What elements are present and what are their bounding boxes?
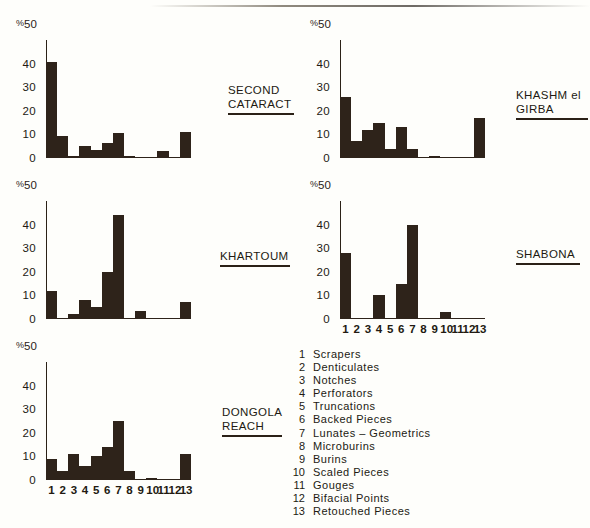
x-tick-label: 9 xyxy=(135,484,146,496)
legend-item: 8Microburins xyxy=(285,440,431,453)
x-tick-labels-dongola-reach: 12345678910111213 xyxy=(46,484,191,496)
x-tick-label: 9 xyxy=(429,323,440,335)
percent-symbol: % xyxy=(16,340,24,350)
bar xyxy=(169,157,180,158)
chart-second-cataract: %50 403020100 SECOND CATARACT xyxy=(0,10,294,175)
y-axis-max: 50 xyxy=(24,179,37,191)
bar xyxy=(91,456,102,480)
bar xyxy=(157,318,168,319)
bar xyxy=(46,291,57,319)
y-tick-label: 10 xyxy=(23,450,36,462)
bar xyxy=(57,318,68,319)
legend-item-label: Denticulates xyxy=(313,361,380,374)
title-line-2: REACH xyxy=(222,420,264,432)
plot-area-dongola-reach: 403020100 12345678910111213 xyxy=(46,362,191,480)
plot-area-khashm-el-girba: 403020100 xyxy=(340,40,485,158)
bar xyxy=(169,479,180,480)
y-axis-max: 50 xyxy=(318,179,331,191)
bar xyxy=(68,454,79,480)
bar xyxy=(451,318,462,319)
legend-item-number: 6 xyxy=(285,413,305,426)
bar xyxy=(373,123,384,158)
y-axis-top-label: %50 xyxy=(310,18,331,30)
bar xyxy=(340,253,351,319)
bar xyxy=(396,127,407,158)
bar xyxy=(68,156,79,158)
x-tick-label: 13 xyxy=(180,484,191,496)
bar xyxy=(102,447,113,480)
legend-item: 11Gouges xyxy=(285,479,431,492)
x-tick-label: 5 xyxy=(385,323,396,335)
y-tick-label: 40 xyxy=(23,58,36,70)
legend-item-number: 7 xyxy=(285,427,305,440)
bar xyxy=(440,157,451,158)
y-axis-max: 50 xyxy=(24,18,37,30)
bar-series-khartoum xyxy=(46,201,191,319)
bar xyxy=(124,318,135,319)
x-tick-label: 8 xyxy=(418,323,429,335)
bar xyxy=(474,318,485,319)
bar xyxy=(135,157,146,158)
y-axis-top-label: %50 xyxy=(16,340,37,352)
y-tick-label: 10 xyxy=(23,289,36,301)
x-tick-label: 12 xyxy=(463,323,474,335)
bar xyxy=(157,479,168,480)
plot-area-shabona: 403020100 12345678910111213 xyxy=(340,201,485,319)
x-tick-label: 2 xyxy=(351,323,362,335)
x-tick-label: 13 xyxy=(474,323,485,335)
plot-area-khartoum: 403020100 xyxy=(46,201,191,319)
bar xyxy=(79,466,90,480)
bar xyxy=(407,149,418,158)
legend-item-number: 11 xyxy=(285,479,305,492)
bar xyxy=(385,149,396,158)
legend-item-number: 2 xyxy=(285,361,305,374)
bar-series-second-cataract xyxy=(46,40,191,158)
y-tick-label: 0 xyxy=(29,313,36,325)
legend-item-label: Scrapers xyxy=(313,348,361,361)
chart-khashm-el-girba: %50 403020100 KHASHM el GIRBA xyxy=(294,10,588,175)
y-tick-label: 0 xyxy=(29,474,36,486)
bar xyxy=(385,318,396,319)
chart-shabona: %50 403020100 12345678910111213 SHABONA xyxy=(294,175,588,350)
percent-symbol: % xyxy=(16,18,24,28)
x-tick-label: 8 xyxy=(124,484,135,496)
x-tick-label: 5 xyxy=(91,484,102,496)
bar xyxy=(474,118,485,158)
bar xyxy=(124,471,135,480)
chart-title-second-cataract: SECOND CATARACT xyxy=(228,83,294,115)
bar xyxy=(146,157,157,158)
legend-item-number: 5 xyxy=(285,400,305,413)
x-tick-label: 10 xyxy=(440,323,451,335)
bar xyxy=(102,143,113,158)
y-tick-label: 20 xyxy=(317,266,330,278)
x-tick-label: 6 xyxy=(396,323,407,335)
x-tick-label: 10 xyxy=(146,484,157,496)
x-tick-label: 1 xyxy=(46,484,57,496)
bar xyxy=(46,62,57,158)
bar xyxy=(440,312,451,319)
bar xyxy=(91,307,102,319)
title-line-1: SECOND xyxy=(228,84,280,96)
plot-area-second-cataract: 403020100 xyxy=(46,40,191,158)
legend-type-list: 1Scrapers2Denticulates3Notches4Perforato… xyxy=(285,348,431,518)
bar xyxy=(362,318,373,319)
y-axis-top-label: %50 xyxy=(16,18,37,30)
title-underline xyxy=(222,435,282,437)
x-tick-label: 11 xyxy=(157,484,168,496)
legend-item: 2Denticulates xyxy=(285,361,431,374)
legend-item: 13Retouched Pieces xyxy=(285,505,431,518)
bar xyxy=(463,157,474,158)
legend-item-number: 12 xyxy=(285,492,305,505)
y-tick-label: 10 xyxy=(317,289,330,301)
chart-dongola-reach: %50 403020100 12345678910111213 DONGOLA … xyxy=(0,340,294,515)
bar xyxy=(407,225,418,319)
bar xyxy=(157,151,168,158)
chart-title-khashm-el-girba: KHASHM el GIRBA xyxy=(516,88,588,120)
legend-item-label: Scaled Pieces xyxy=(313,466,389,479)
y-axis-top-label: %50 xyxy=(16,179,37,191)
bar xyxy=(169,318,180,319)
bar xyxy=(362,130,373,158)
bar xyxy=(180,454,191,480)
x-tick-label: 2 xyxy=(57,484,68,496)
bar xyxy=(180,132,191,158)
